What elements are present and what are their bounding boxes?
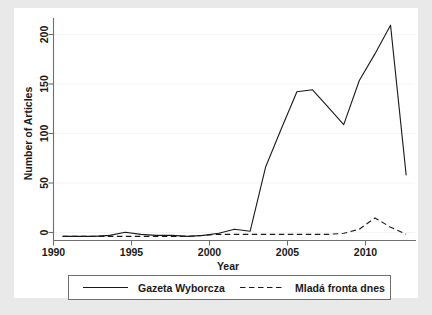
data-series: [63, 25, 406, 236]
grid-lines: [53, 35, 415, 233]
legend-label-gazeta-wyborcza: Gazeta Wyborcza: [138, 282, 225, 294]
line-chart-svg: 0 50 100 150 200 Number of Articles 1990: [0, 0, 432, 315]
y-tick-label-150: 150: [38, 75, 50, 93]
chart-legend: Gazeta Wyborcza Mladá fronta dnes: [69, 276, 391, 300]
y-tick-label-100: 100: [38, 125, 50, 143]
x-tick-label-2010: 2010: [354, 246, 378, 258]
y-tick-label-50: 50: [38, 177, 50, 189]
chart-plot-wrapper: 0 50 100 150 200 Number of Articles 1990: [0, 0, 432, 315]
x-tick-label-1995: 1995: [120, 246, 144, 258]
x-tick-labels: 1990 1995 2000 2005 2010: [42, 246, 378, 258]
y-tick-label-0: 0: [38, 229, 50, 235]
legend-label-mlada-fronta-dnes: Mladá fronta dnes: [295, 282, 385, 294]
series-line-gazeta-wyborcza: [63, 25, 406, 236]
series-line-mlada-fronta-dnes: [63, 218, 406, 236]
x-tick-label-2005: 2005: [276, 246, 300, 258]
x-tick-label-1990: 1990: [42, 246, 66, 258]
x-axis-title: Year: [217, 260, 239, 272]
x-tick-label-2000: 2000: [198, 246, 222, 258]
chart-figure: 0 50 100 150 200 Number of Articles 1990: [0, 0, 432, 315]
x-axis: [54, 241, 417, 246]
y-tick-labels: 0 50 100 150 200: [38, 26, 50, 236]
y-axis-title: Number of Articles: [22, 87, 34, 181]
y-tick-label-200: 200: [38, 26, 50, 44]
